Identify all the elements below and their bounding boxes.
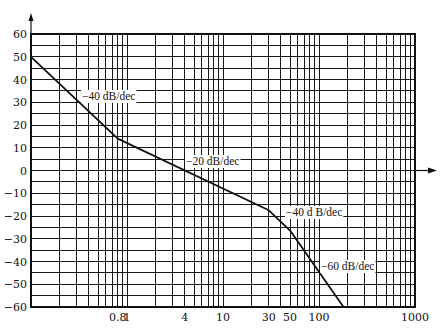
y-tick-labels: 6050403020100−10−20−30−40−50−60 xyxy=(4,28,27,314)
y-tick-label: 10 xyxy=(13,142,27,155)
y-tick-label: 20 xyxy=(13,119,27,132)
y-tick-label: 50 xyxy=(13,51,27,64)
y-tick-label: 60 xyxy=(13,28,27,41)
x-tick-label: 30 xyxy=(262,311,276,324)
x-tick-label: 100 xyxy=(309,311,330,324)
y-tick-label: 30 xyxy=(13,96,27,109)
slope-label: −20 dB/dec xyxy=(185,155,240,168)
y-tick-label: −30 xyxy=(4,233,27,246)
x-tick-label: 1000 xyxy=(401,311,429,324)
bode-magnitude-chart: 6050403020100−10−20−30−40−50−60 0.814103… xyxy=(0,0,446,333)
svg-text:−40 d B/dec: −40 d B/dec xyxy=(286,206,342,218)
y-tick-label: 40 xyxy=(13,74,27,87)
slope-label: −40 d B/dec xyxy=(285,206,343,219)
y-tick-label: −20 xyxy=(4,210,27,223)
svg-text:−40 dB/dec: −40 dB/dec xyxy=(82,90,135,102)
y-tick-label: −60 xyxy=(4,301,27,314)
slope-label: −40 dB/dec xyxy=(81,90,136,103)
x-tick-label: 10 xyxy=(216,311,230,324)
slope-label: −60 dB/dec xyxy=(320,260,375,273)
x-tick-label: 4 xyxy=(181,311,188,324)
x-tick-label: 50 xyxy=(283,311,297,324)
x-axis-arrow-icon xyxy=(428,168,437,174)
x-tick-label: 1 xyxy=(124,311,131,324)
y-tick-label: −40 xyxy=(4,256,27,269)
y-axis-arrow-icon xyxy=(29,13,34,21)
svg-text:−60 dB/dec: −60 dB/dec xyxy=(321,260,374,272)
y-tick-label: 0 xyxy=(20,165,27,178)
x-tick-labels: 0.8141030501001000 xyxy=(109,311,429,324)
svg-text:−20 dB/dec: −20 dB/dec xyxy=(186,155,239,167)
y-tick-label: −50 xyxy=(4,278,27,291)
y-tick-label: −10 xyxy=(4,187,27,200)
